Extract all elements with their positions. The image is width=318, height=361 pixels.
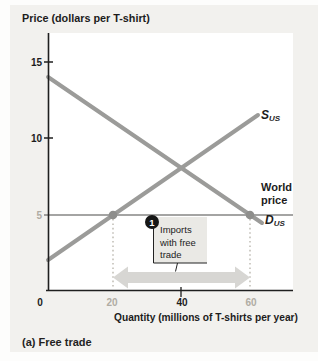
y-axis-title: Price (dollars per T-shirt) (22, 12, 150, 24)
x-axis-title: Quantity (millions of T-shirts per year) (114, 312, 298, 323)
marker-demand-at-world-price (246, 211, 255, 220)
world-price-label-line1: World (261, 181, 292, 193)
textbook-figure-free-trade: Price (dollars per T-shirt) 15 10 5 0 20… (0, 0, 318, 361)
x-tick-40: 40 (176, 297, 188, 308)
demand-label-main: D (265, 213, 274, 227)
y-tick-15: 15 (31, 57, 43, 68)
callout-text-line1: Imports (160, 224, 192, 235)
supply-label-sub: US (269, 114, 281, 123)
callout-text-line3: trade (160, 249, 182, 260)
y-tick-10: 10 (31, 133, 43, 144)
demand-label-sub: US (274, 219, 286, 228)
x-tick-60: 60 (245, 297, 257, 308)
x-tick-0: 0 (37, 297, 43, 308)
callout-number: 1 (149, 217, 155, 228)
callout-text-line2: with free (159, 237, 196, 248)
marker-supply-at-world-price (109, 211, 118, 220)
x-tick-20: 20 (106, 297, 118, 308)
figure-caption: (a) Free trade (22, 336, 92, 348)
supply-label-main: S (261, 108, 269, 122)
y-tick-5: 5 (36, 210, 42, 221)
chart-canvas: Price (dollars per T-shirt) 15 10 5 0 20… (0, 0, 318, 361)
world-price-label-line2: price (261, 194, 287, 206)
